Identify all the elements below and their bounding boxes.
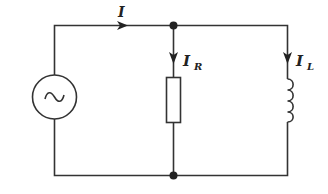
junction-bottom xyxy=(170,172,178,180)
inductor xyxy=(288,79,294,122)
sine-wave-icon xyxy=(45,93,64,102)
wire-left-top xyxy=(55,26,288,76)
junction-top xyxy=(170,22,178,30)
wires xyxy=(55,26,288,176)
wire-left-bottom xyxy=(55,119,288,176)
label-resistor-current: I xyxy=(182,52,191,70)
label-inductor-subscript: L xyxy=(306,61,314,72)
resistor xyxy=(167,78,181,123)
label-resistor-subscript: R xyxy=(193,61,202,72)
circuit-diagram: I I R I L xyxy=(0,0,328,194)
ac-source xyxy=(33,75,77,119)
label-inductor-current: I xyxy=(295,52,304,70)
label-total-current: I xyxy=(117,4,125,20)
